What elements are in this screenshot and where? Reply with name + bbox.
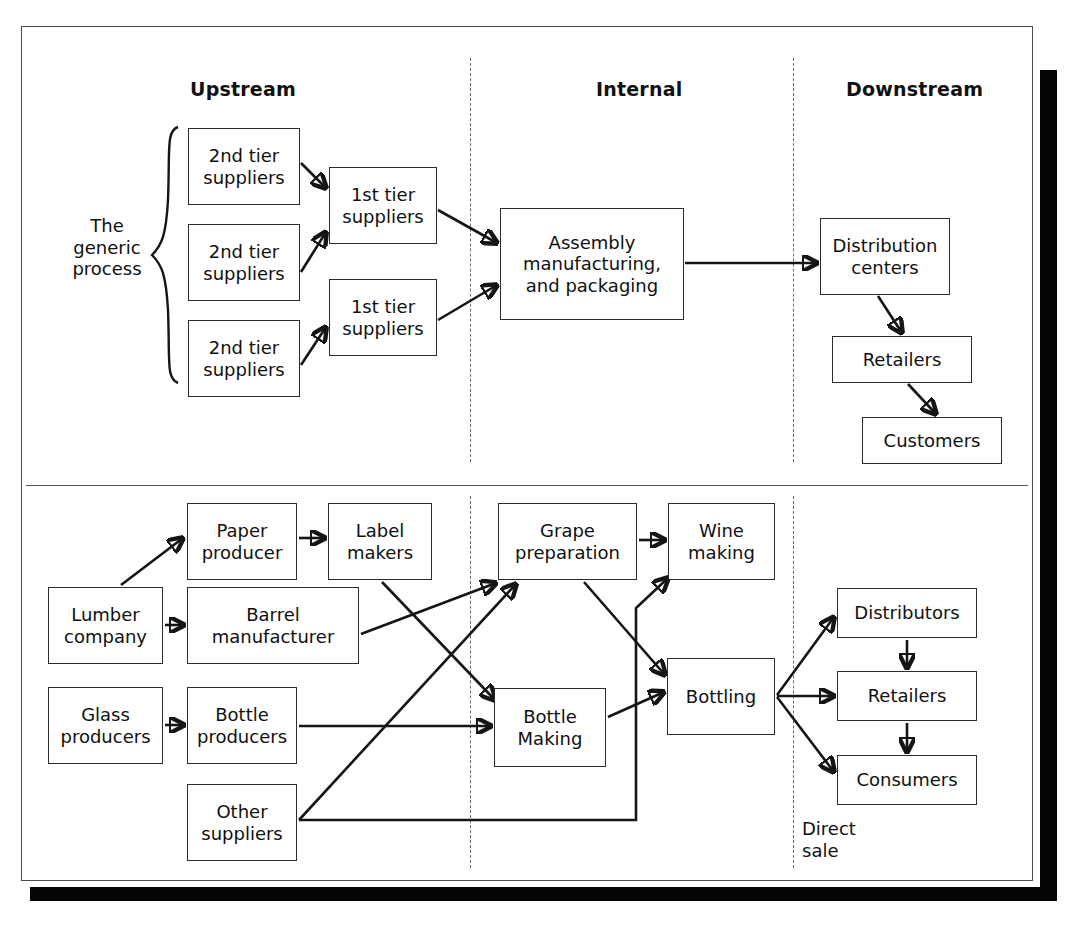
node-label: Retailers [863,349,942,370]
node-label: 2nd tier suppliers [203,145,285,187]
node-wine-making[interactable]: Wine making [668,503,775,580]
node-assembly-manufacturing-packaging[interactable]: Assembly manufacturing, and packaging [500,208,684,320]
node-2nd-tier-suppliers-1[interactable]: 2nd tier suppliers [188,128,300,205]
node-label: 2nd tier suppliers [203,241,285,283]
divider-upstream-internal-bottom [470,496,471,868]
node-distributors[interactable]: Distributors [837,588,977,638]
node-label: Assembly manufacturing, and packaging [523,232,661,296]
node-lumber-company[interactable]: Lumber company [48,587,163,664]
node-retailers-generic[interactable]: Retailers [832,336,972,383]
node-label: Paper producer [202,520,283,562]
node-label: 2nd tier suppliers [203,337,285,379]
node-distribution-centers[interactable]: Distribution centers [820,218,950,295]
divider-between-diagrams [26,485,1028,486]
node-grape-preparation[interactable]: Grape preparation [498,503,637,580]
panel-shadow-right [1040,70,1057,895]
node-label-makers[interactable]: Label makers [328,503,432,580]
node-bottle-making[interactable]: Bottle Making [494,688,606,767]
node-label: Grape preparation [515,520,620,562]
generic-process-brace-label: The generic process [52,215,162,280]
node-1st-tier-suppliers-1[interactable]: 1st tier suppliers [329,167,437,244]
node-label: Distribution centers [832,235,937,277]
node-other-suppliers[interactable]: Other suppliers [187,784,297,861]
column-header-downstream: Downstream [846,78,983,100]
annotation-direct-sale: Direct sale [802,818,892,861]
node-label: Glass producers [60,704,150,746]
node-barrel-manufacturer[interactable]: Barrel manufacturer [187,587,359,664]
node-label: Wine making [688,520,755,562]
node-label: Bottle producers [197,704,287,746]
node-label: 1st tier suppliers [342,296,424,338]
divider-internal-downstream-top [793,58,794,462]
divider-internal-downstream-bottom [793,496,794,868]
node-1st-tier-suppliers-2[interactable]: 1st tier suppliers [329,279,437,356]
node-bottling[interactable]: Bottling [667,658,775,735]
node-label: Customers [884,430,981,451]
node-2nd-tier-suppliers-3[interactable]: 2nd tier suppliers [188,320,300,397]
node-label: Bottle Making [518,706,583,748]
node-label: 1st tier suppliers [342,184,424,226]
node-2nd-tier-suppliers-2[interactable]: 2nd tier suppliers [188,224,300,301]
column-header-upstream: Upstream [190,78,296,100]
column-header-internal: Internal [596,78,682,100]
node-consumers[interactable]: Consumers [837,755,977,805]
panel-shadow-bottom [30,887,1057,901]
node-bottle-producers[interactable]: Bottle producers [187,687,297,764]
node-label: Other suppliers [201,801,283,843]
node-customers[interactable]: Customers [862,417,1002,464]
node-label: Bottling [686,686,756,707]
node-retailers-wine[interactable]: Retailers [837,671,977,721]
node-glass-producers[interactable]: Glass producers [48,687,163,764]
divider-upstream-internal-top [470,58,471,462]
node-label: Barrel manufacturer [212,604,335,646]
node-label: Lumber company [64,604,147,646]
node-label: Label makers [347,520,413,562]
node-label: Consumers [856,769,957,790]
node-paper-producer[interactable]: Paper producer [187,503,297,580]
figure-page: Upstream Internal Downstream The generic… [0,0,1083,941]
node-label: Retailers [868,685,947,706]
node-label: Distributors [854,602,959,623]
